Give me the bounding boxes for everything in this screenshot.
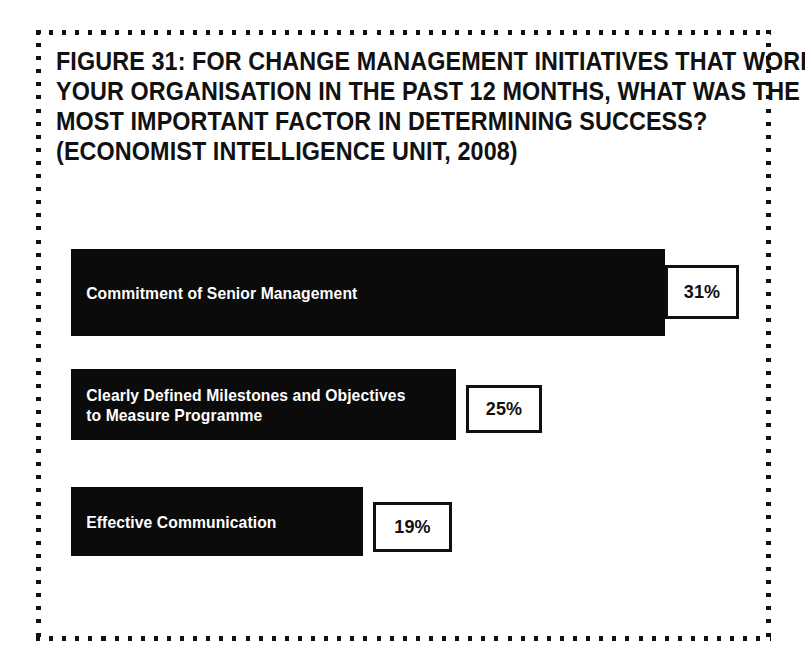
value-label: 25% [486,399,523,420]
bar-commitment-of-senior-management: Commitment of Senior Management [71,249,665,336]
bar-label: Clearly Defined Milestones and Objective… [71,385,415,425]
value-box: 19% [373,502,452,552]
value-label: 31% [684,282,721,303]
value-label: 19% [394,517,431,538]
bar-effective-communication: Effective Communication [71,487,363,556]
value-box: 25% [466,385,542,433]
figure-container: FIGURE 31: FOR CHANGE MANAGEMENT INITIAT… [0,0,805,668]
bar-chart: Commitment of Senior Management 31% Clea… [0,0,805,668]
value-box: 31% [665,265,739,319]
bar-label: Commitment of Senior Management [71,283,367,303]
bar-label: Effective Communication [71,512,286,532]
bar-clearly-defined-milestones: Clearly Defined Milestones and Objective… [71,369,456,440]
